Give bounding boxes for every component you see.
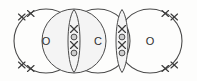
bond-right-lens [116, 10, 128, 73]
oxygen-right-label: O [146, 35, 155, 47]
lone-pair-cross-right-bottom-a [162, 66, 169, 72]
lone-pair-cross-left-bottom-b [28, 66, 35, 72]
bond-right-electron-dot-1 [119, 34, 125, 40]
carbon-label: C [94, 35, 102, 47]
bond-left-electron-dot-1 [71, 34, 77, 40]
oxygen-left-label: O [42, 35, 51, 47]
lone-pair-cross-right-top-a [162, 11, 169, 17]
bond-right-electron-dot-2 [119, 50, 125, 56]
co2-dot-and-cross-diagram: O C O [0, 0, 197, 81]
lone-pair-cross-left-top-b [28, 11, 35, 17]
diagram-canvas: O C O [0, 0, 197, 81]
bond-left-electron-dot-2 [71, 50, 77, 56]
